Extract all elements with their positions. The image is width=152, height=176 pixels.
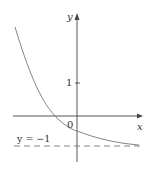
x-axis-arrow-icon [137, 114, 143, 119]
y-axis-arrow-icon [75, 13, 80, 20]
x-axis-label: x [137, 121, 143, 132]
graph: y x 1 0 y = −1 [0, 0, 152, 176]
asymptote-label: y = −1 [16, 133, 50, 144]
origin-label: 0 [67, 119, 73, 130]
y-axis-label: y [66, 11, 73, 22]
tick-label-1: 1 [66, 77, 72, 88]
